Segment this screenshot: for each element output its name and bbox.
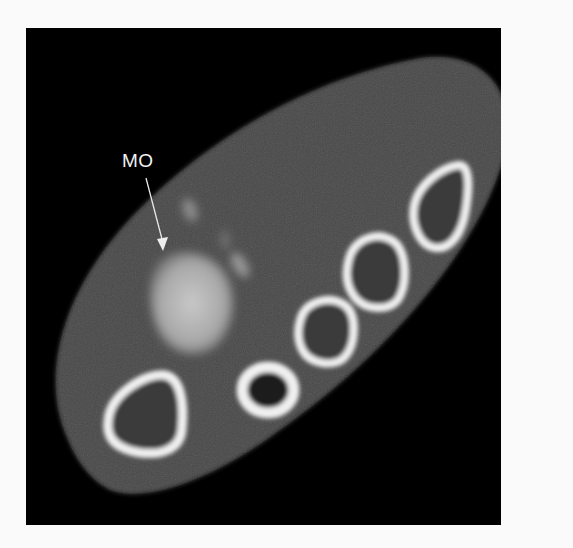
- ct-image-panel: MO: [26, 28, 501, 525]
- ct-scan-svg: [26, 28, 501, 525]
- annotation-label-mo: MO: [122, 150, 154, 172]
